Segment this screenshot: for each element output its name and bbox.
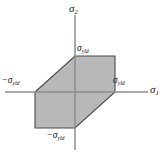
tick-label-positive-sigma-yld-y: σyld: [77, 44, 89, 54]
tick-subscript-pos-x: yld: [118, 80, 125, 86]
tick-sigma-glyph-neg-x: σ: [8, 75, 13, 85]
tick-subscript-neg-y: yld: [58, 135, 65, 141]
tick-sigma-glyph-neg-y: σ: [53, 130, 58, 140]
figure-canvas: [0, 0, 164, 164]
sigma-2-axis-label: σ2: [69, 3, 78, 14]
sigma-1-subscript: 1: [155, 89, 158, 96]
tick-label-positive-sigma-yld-x: σyld: [113, 76, 125, 86]
tick-sigma-glyph-pos-y: σ: [77, 43, 82, 53]
sigma-1-axis-label: σ1: [150, 84, 159, 95]
tick-subscript-pos-y: yld: [82, 48, 89, 54]
tick-sigma-glyph-pos-x: σ: [113, 75, 118, 85]
sigma-2-subscript: 2: [74, 8, 77, 15]
yield-surface-figure: σ2 σ1 σyld −σyld σyld −σyld: [0, 0, 164, 164]
tick-subscript-neg-x: yld: [13, 80, 20, 86]
tick-label-negative-sigma-yld-x: −σyld: [2, 76, 19, 86]
tick-label-negative-sigma-yld-y: −σyld: [47, 131, 64, 141]
